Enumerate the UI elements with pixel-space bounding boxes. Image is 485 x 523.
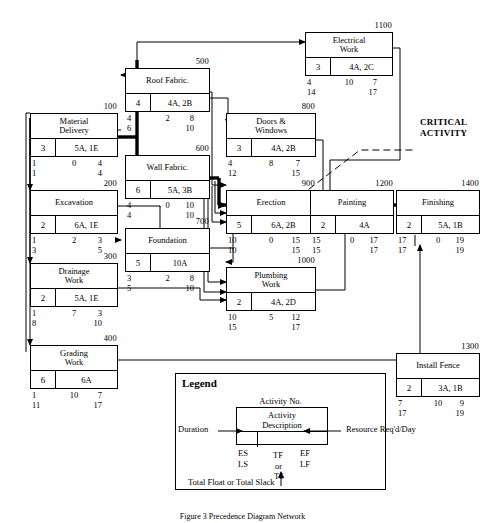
total-float: 0 — [72, 158, 76, 168]
desc-line-1: Grading — [60, 348, 88, 358]
activity-box: Painting 2 4A — [310, 190, 394, 234]
late-finish: 17 — [370, 245, 379, 255]
late-finish: 4 — [98, 168, 102, 178]
early-finish: 7 — [373, 77, 377, 87]
activity-times: 1 10 7 11 17 — [30, 389, 118, 411]
desc-line-1: Finishing — [422, 198, 454, 208]
activity-times: 7 10 9 17 19 — [396, 397, 480, 419]
resource-cell: 5A, 1E — [56, 139, 117, 156]
activity-description: Plumbing Work — [227, 268, 315, 292]
activity-duration-resource-row: 2 6A, 1E — [31, 215, 117, 233]
duration-cell: 5 — [126, 254, 151, 271]
total-float: 7 — [72, 308, 76, 318]
resource-cell: 4A — [336, 216, 393, 233]
activity-times: 17 0 19 17 19 — [396, 234, 480, 256]
late-finish: 5 — [98, 245, 102, 255]
activity-node-900[interactable]: 900 Erection 5 6A, 2B 10 0 15 10 15 — [226, 190, 316, 256]
desc-line-1: Erection — [257, 198, 286, 208]
activity-id: 1200 — [375, 178, 393, 188]
desc-line-1: Material — [60, 116, 89, 126]
critical-activity-line-1: CRITICAL — [420, 117, 467, 128]
total-float: 0 — [269, 235, 273, 245]
activity-node-600[interactable]: 600 Wall Fabric. 6 5A, 3B 4 0 10 4 10 — [125, 155, 210, 221]
activity-duration-resource-row: 3 4A, 2C — [306, 57, 392, 75]
early-finish: 3 — [98, 308, 102, 318]
early-finish: 12 — [292, 312, 301, 322]
late-start: 5 — [127, 283, 131, 293]
early-finish: 3 — [98, 235, 102, 245]
activity-node-800[interactable]: 800 Doors & Windows 3 4A, 2B 4 8 7 12 15 — [226, 113, 316, 179]
duration-cell: 2 — [31, 289, 56, 306]
activity-node-400[interactable]: 400 Grading Work 6 6A 1 10 7 11 17 — [30, 345, 118, 411]
activity-duration-resource-row: 6 6A — [31, 370, 117, 388]
total-float: 5 — [269, 312, 273, 322]
desc-line-1: Doors & — [256, 116, 286, 126]
resource-cell: 6A, 2B — [252, 216, 315, 233]
activity-description: Doors & Windows — [227, 114, 315, 138]
late-start: 15 — [228, 322, 237, 332]
late-start: 4 — [127, 210, 131, 220]
activity-node-200[interactable]: 200 Excavation 2 6A, 1E 1 2 3 3 5 — [30, 190, 118, 256]
desc-line-2: Work — [262, 279, 281, 289]
activity-description: Wall Fabric. — [126, 156, 209, 180]
resource-cell: 6A — [56, 371, 117, 388]
activity-node-1300[interactable]: 1300 Install Fence 2 3A, 1B 7 10 9 17 19 — [396, 353, 480, 419]
activity-node-300[interactable]: 300 Drainage Work 2 5A, 1E 1 7 3 8 10 — [30, 263, 118, 329]
critical-activity-line-2: ACTIVITY — [420, 128, 467, 139]
desc-line-2: Work — [65, 357, 84, 367]
late-finish: 10 — [186, 283, 195, 293]
early-start: 1 — [32, 158, 36, 168]
desc-line-1: Foundation — [148, 236, 187, 246]
activity-node-1100[interactable]: 1100 Electrical Work 3 4A, 2C 4 10 7 14 … — [305, 32, 393, 98]
resource-cell: 4A, 2D — [252, 293, 315, 310]
activity-node-500[interactable]: 500 Roof Fabric. 4 4A, 2B 4 2 8 6 10 — [125, 68, 210, 134]
activity-description: Erection — [227, 191, 315, 215]
early-start: 1 — [32, 308, 36, 318]
activity-duration-resource-row: 2 4A, 2D — [227, 292, 315, 310]
late-start: 3 — [32, 245, 36, 255]
figure-caption: Figure 3 Precedence Diagram Network — [0, 512, 485, 521]
activity-box: Roof Fabric. 4 4A, 2B — [125, 68, 210, 112]
activity-box: Wall Fabric. 6 5A, 3B — [125, 155, 210, 199]
desc-line-2: Delivery — [59, 125, 89, 135]
desc-line-1: Roof Fabric. — [146, 76, 189, 86]
total-float: 10 — [70, 390, 79, 400]
activity-node-1400[interactable]: 1400 Finishing 2 5A, 1B 17 0 19 17 19 — [396, 190, 480, 256]
activity-box: Electrical Work 3 4A, 2C — [305, 32, 393, 76]
activity-node-100[interactable]: 100 Material Delivery 3 5A, 1E 1 0 4 1 4 — [30, 113, 118, 179]
duration-cell: 2 — [227, 293, 252, 310]
activity-node-1000[interactable]: 1000 Plumbing Work 2 4A, 2D 10 5 12 15 1… — [226, 267, 316, 333]
duration-cell: 4 — [126, 94, 151, 111]
total-float: 0 — [436, 235, 440, 245]
activity-id: 1000 — [297, 255, 315, 265]
activity-description: Electrical Work — [306, 33, 392, 57]
activity-id: 600 — [196, 143, 209, 153]
activity-node-1200[interactable]: 1200 Painting 2 4A 15 0 17 15 17 — [310, 190, 394, 256]
late-finish: 17 — [369, 87, 378, 97]
activity-node-700[interactable]: 700 Foundation 5 10A 3 2 8 5 10 — [125, 228, 210, 294]
activity-description: Excavation — [31, 191, 117, 215]
duration-cell: 3 — [31, 139, 56, 156]
activity-duration-resource-row: 5 10A — [126, 253, 209, 271]
late-start: 17 — [398, 408, 407, 418]
total-float: 0 — [165, 200, 169, 210]
activity-times: 3 2 8 5 10 — [125, 272, 210, 294]
late-start: 15 — [312, 245, 321, 255]
activity-duration-resource-row: 6 5A, 3B — [126, 180, 209, 198]
late-finish: 10 — [94, 318, 103, 328]
late-start: 1 — [32, 168, 36, 178]
activity-times: 1 0 4 1 4 — [30, 157, 118, 179]
activity-times: 4 10 7 14 17 — [305, 76, 393, 98]
activity-box: Install Fence 2 3A, 1B — [396, 353, 480, 397]
early-finish: 8 — [190, 273, 194, 283]
activity-id: 700 — [196, 216, 209, 226]
activity-box: Erection 5 6A, 2B — [226, 190, 316, 234]
early-start: 15 — [312, 235, 321, 245]
activity-times: 15 0 17 15 17 — [310, 234, 394, 256]
activity-duration-resource-row: 3 5A, 1E — [31, 138, 117, 156]
late-finish: 19 — [456, 408, 465, 418]
legend-panel: Legend Activity No. Activity Description… — [175, 373, 386, 490]
duration-cell: 2 — [311, 216, 336, 233]
activity-times: 10 0 15 10 15 — [226, 234, 316, 256]
resource-cell: 4A, 2B — [252, 139, 315, 156]
